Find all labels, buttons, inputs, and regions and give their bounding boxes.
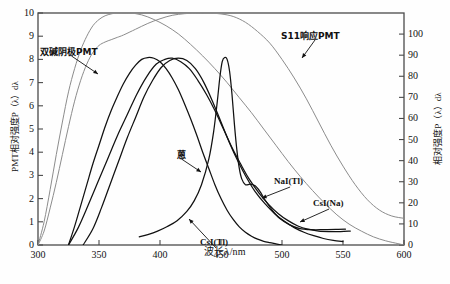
y-left-tick-label-9: 9 [10,30,34,41]
figure-container: 3003504004505005506000123456789100102030… [0,0,450,284]
leader-arrow-2 [196,168,201,172]
y-left-tick-label-10: 10 [10,7,34,18]
curve-3 [139,57,345,237]
leader-arrow-0 [93,70,98,74]
y-left-tick-label-1: 1 [10,216,34,227]
curve-label-0: 双碱阴极PMT [40,45,98,58]
leader-arrow-1 [302,53,306,58]
curve-label-4: NaI(Tl) [274,176,303,186]
y-axis-right-title: 相对强度P（λ）dλ [431,44,444,214]
curve-label-5: CsI(Na) [313,198,344,208]
curve-label-2: 蒽 [177,148,186,161]
leader-line-5 [300,209,329,222]
y-axis-left-title: PMT相对强度P（λ）dλ [8,42,21,212]
y-right-tick-label-10: 10 [408,218,434,229]
curve-label-1: S11响应PMT [281,29,340,42]
curve-2 [69,57,283,245]
curve-5 [69,58,351,245]
x-axis-title: 波长λ/nm [0,243,450,258]
y-right-tick-label-100: 100 [408,28,434,39]
